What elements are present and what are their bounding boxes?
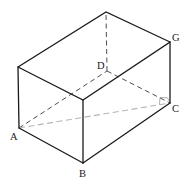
diagonal-a-c <box>19 103 170 128</box>
edge-a-b <box>19 128 83 163</box>
top-face <box>18 12 170 100</box>
label-a: A <box>10 131 18 142</box>
cuboid-diagram: A B C D G <box>0 0 187 181</box>
label-b: B <box>79 168 86 179</box>
label-d: D <box>97 60 105 71</box>
edge-d-top <box>106 12 107 71</box>
edge-a-d <box>19 71 107 128</box>
edge-d-c <box>107 71 170 103</box>
edge-left-vertical <box>18 67 19 128</box>
edge-b-c <box>83 103 170 163</box>
visible-edges <box>18 12 170 163</box>
hidden-edges <box>19 12 170 128</box>
label-g: G <box>172 32 180 43</box>
label-c: C <box>172 103 179 114</box>
